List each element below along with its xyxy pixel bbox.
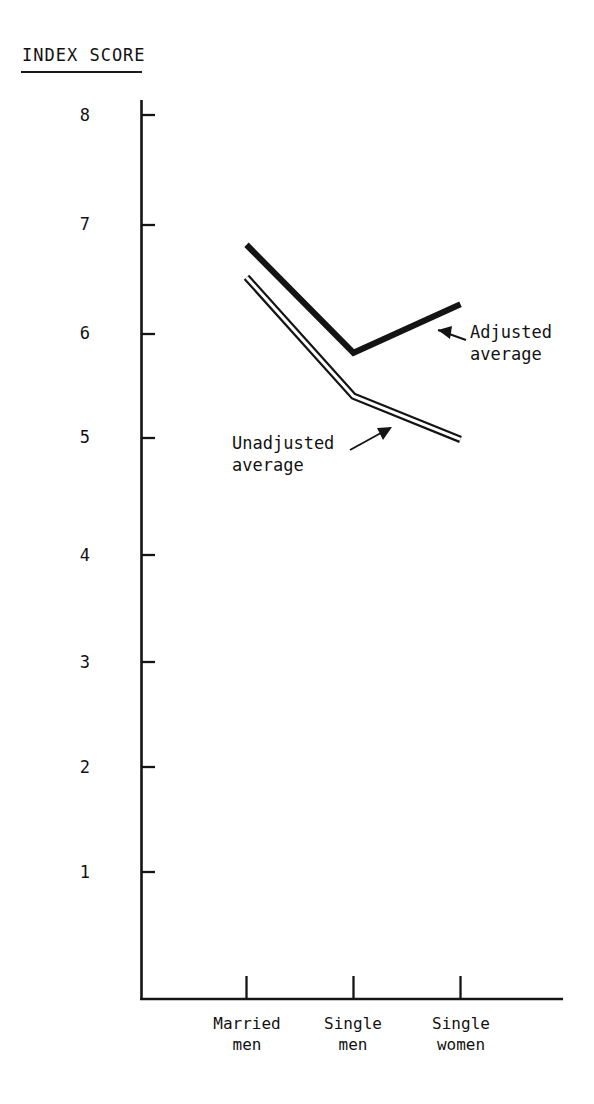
adjusted-annotation-arrow bbox=[438, 326, 466, 340]
plot-area bbox=[0, 0, 594, 1104]
unadjusted-annotation-arrow bbox=[350, 427, 392, 450]
series-adjusted-average bbox=[247, 245, 461, 353]
x-axis bbox=[140, 976, 563, 999]
series-unadjusted-average bbox=[247, 277, 461, 439]
y-axis bbox=[141, 100, 155, 1000]
chart-figure: INDEX SCORE 8 7 6 5 4 3 2 1 Married men … bbox=[0, 0, 594, 1104]
